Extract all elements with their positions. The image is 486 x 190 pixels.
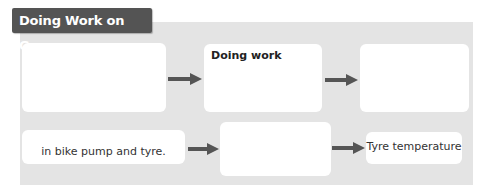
right-arrow-icon — [325, 74, 358, 86]
page-title: Doing Work on Gases — [12, 8, 152, 33]
right-arrow-icon — [168, 73, 202, 85]
flow-box-row1-1[interactable] — [22, 43, 166, 112]
flow-box-text: Doing work — [211, 49, 281, 62]
right-arrow-icon — [332, 142, 365, 154]
flow-box-row2-1[interactable]: in bike pump and tyre. — [22, 130, 185, 164]
flow-box-text: in bike pump and tyre. — [22, 145, 185, 158]
right-arrow-icon — [188, 143, 219, 155]
flow-box-row2-2[interactable] — [220, 122, 331, 176]
flow-box-row1-2[interactable]: Doing work — [204, 44, 322, 112]
flow-box-row2-3[interactable]: Tyre temperature — [366, 132, 462, 164]
flow-box-row1-3[interactable] — [360, 44, 469, 112]
flow-box-text: Tyre temperature — [366, 140, 462, 153]
